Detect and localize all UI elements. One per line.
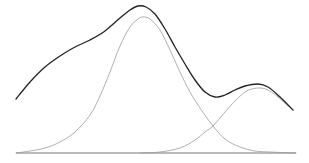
density-chart bbox=[0, 0, 309, 163]
component-1-curve bbox=[16, 17, 296, 153]
mixture-curve bbox=[16, 6, 293, 110]
